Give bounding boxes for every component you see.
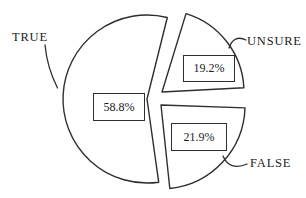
data-label-box-false: 21.9%	[171, 123, 227, 151]
slice-label-false: FALSE	[250, 156, 291, 171]
data-label-box-true: 58.8%	[93, 93, 145, 121]
pie-chart-figure: TRUE UNSURE FALSE 58.8% 19.2% 21.9%	[0, 0, 306, 198]
true-leader-line	[45, 45, 58, 88]
unsure-leader-line	[229, 38, 246, 48]
data-label-box-unsure: 19.2%	[183, 55, 235, 82]
slice-label-true: TRUE	[12, 30, 48, 45]
slice-label-unsure: UNSURE	[247, 34, 302, 49]
